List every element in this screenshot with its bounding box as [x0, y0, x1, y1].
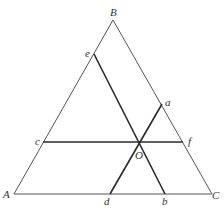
- label-vertex-b: B: [110, 6, 117, 18]
- label-point-d: d: [104, 195, 110, 207]
- triangle-abc: [14, 20, 212, 194]
- label-point-c: c: [35, 135, 40, 147]
- label-vertex-a: A: [2, 188, 10, 200]
- label-point-b: b: [162, 195, 168, 207]
- label-point-e: e: [85, 47, 90, 59]
- label-point-a: a: [165, 96, 171, 108]
- label-point-o: O: [135, 149, 143, 161]
- label-vertex-c: C: [212, 189, 220, 201]
- segment-eb: [94, 54, 165, 194]
- ternary-diagram: B A C e a c f O d b: [0, 0, 224, 213]
- label-point-f: f: [188, 135, 193, 147]
